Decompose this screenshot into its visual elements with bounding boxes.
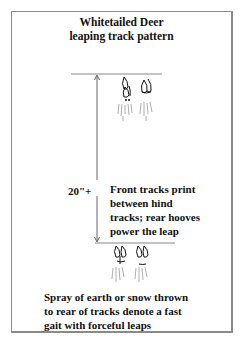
annotation-line: tracks; rear hooves [110,210,230,224]
annotation-line: to rear of tracks denote a fast [44,304,234,318]
annotation-line: power the leap [110,224,230,238]
spray-marks-top [118,102,152,121]
distance-label: 20"+ [68,185,91,197]
hoof-prints-bottom [115,246,149,265]
spray-marks-bottom [112,267,147,282]
distance-arrow [95,75,100,242]
annotation-line: Spray of earth or snow thrown [44,290,234,304]
hoof-prints-top [123,77,152,97]
dewclaw-marks-top [125,99,130,101]
spray-annotation: Spray of earth or snow thrown to rear of… [44,290,234,332]
annotation-line: gait with forceful leaps [44,318,234,332]
annotation-line: Front tracks print [110,182,230,196]
annotation-line: between hind [110,196,230,210]
front-tracks-annotation: Front tracks print between hind tracks; … [110,182,230,238]
